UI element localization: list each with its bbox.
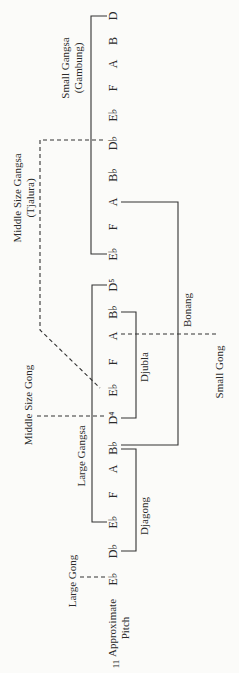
djubla-bracket: [121, 312, 136, 418]
pitch-column: DBAFE♭D♭B♭AFE♭D⁵B♭AFE♭D⁴B♭AFE♭D♭E♭: [106, 11, 120, 585]
bonang-bracket: [121, 202, 178, 445]
pitch-label: A: [106, 331, 120, 340]
pitch-label: B♭: [106, 168, 120, 182]
small-gangsa-bracket: [91, 16, 107, 254]
djagong-bracket: [121, 449, 136, 551]
small-gong-label: Small Gong: [213, 345, 225, 398]
djagong-label: Djagong: [138, 497, 150, 535]
pitch-label: D⁴: [106, 412, 120, 425]
pitch-label: D♭: [106, 136, 120, 150]
small-gangsa-label: Small Gangsa: [59, 37, 71, 99]
pitch-label: D: [106, 11, 120, 20]
pitch-label: A: [106, 197, 120, 206]
pitch-label: B♭: [106, 305, 120, 319]
middle-gangsa-label: Middle Size Gangsa: [11, 153, 23, 242]
large-gangsa-label: Large Gangsa: [75, 425, 87, 486]
large-gangsa-bracket: [92, 285, 107, 522]
large-gong-label: Large Gong: [66, 554, 78, 607]
pitch-label: E♭: [106, 516, 120, 529]
pitch-label: F: [106, 84, 120, 91]
approximate-pitch-label: Approximate: [106, 599, 118, 657]
pitch-label: E♭: [106, 384, 120, 397]
page-number: 11: [111, 660, 121, 669]
pitch-label: D♭: [106, 544, 120, 558]
pitch-label: F: [106, 223, 120, 230]
middle-gangsa-dashed-link: [40, 140, 103, 388]
instrument-range-diagram: DBAFE♭D♭B♭AFE♭D⁵B♭AFE♭D⁴B♭AFE♭D♭E♭ Small…: [0, 0, 239, 673]
pitch-label: D⁵: [106, 279, 120, 292]
pitch-label: E♭: [106, 248, 120, 261]
pitch-label: F: [106, 358, 120, 365]
pitch-label: A: [106, 464, 120, 473]
pitch-label: A: [106, 59, 120, 68]
pitch-label: E♭: [106, 109, 120, 122]
pitch-label: E♭: [106, 573, 120, 586]
approximate-pitch-label-line2: Pitch: [119, 616, 131, 639]
pitch-label: B: [106, 37, 120, 45]
djubla-label: Djubla: [138, 352, 150, 382]
pitch-label: B♭: [106, 441, 120, 455]
middle-gong-label: Middle Size Gong: [22, 364, 34, 445]
small-gangsa-sublabel: (Gambung): [72, 42, 85, 93]
bonang-label: Bonang: [181, 292, 193, 327]
pitch-label: F: [106, 491, 120, 498]
middle-gangsa-sublabel: (Tjalura): [24, 178, 37, 217]
